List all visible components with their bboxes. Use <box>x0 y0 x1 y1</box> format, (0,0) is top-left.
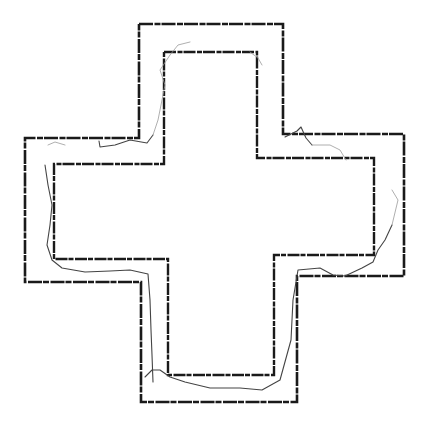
maze-drawing <box>0 0 428 422</box>
background <box>0 0 428 422</box>
